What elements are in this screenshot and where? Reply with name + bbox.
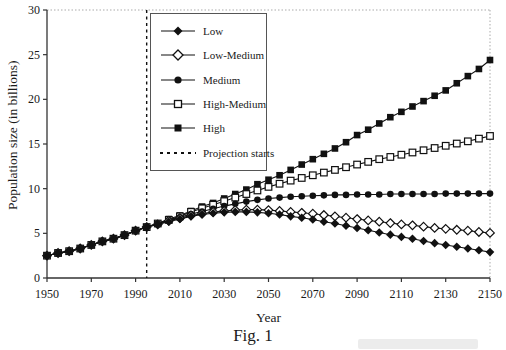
open-square-marker <box>398 151 405 158</box>
open-square-marker <box>321 169 328 176</box>
x-axis-label: Year <box>47 310 490 326</box>
legend-item-low: Low <box>159 24 264 38</box>
legend-label: High-Medium <box>203 98 266 110</box>
filled-circle-marker <box>442 190 449 197</box>
filled-square-marker <box>254 181 261 188</box>
open-square-marker <box>409 149 416 156</box>
y-axis-label: Population size (in billions) <box>5 80 21 210</box>
open-square-marker <box>376 156 383 163</box>
population-projection-figure: 0510152025301950197019902010203020502070… <box>0 0 506 350</box>
filled-diamond-marker <box>375 228 384 237</box>
filled-diamond-marker <box>364 226 373 235</box>
y-tick-label: 30 <box>28 3 40 17</box>
filled-diamond-marker <box>486 248 495 257</box>
legend-item-high-medium: High-Medium <box>159 97 264 111</box>
filled-square-marker <box>343 139 350 146</box>
open-diamond-marker <box>397 220 406 229</box>
open-square-marker <box>453 140 460 147</box>
filled-square-marker <box>420 98 427 105</box>
open-square-marker <box>343 164 350 171</box>
filled-circle-marker <box>298 193 305 200</box>
legend-label: Projection starts <box>203 147 274 159</box>
filled-diamond-marker <box>309 215 318 224</box>
filled-square-marker <box>487 57 494 64</box>
filled-square-marker <box>376 120 383 127</box>
filled-circle-marker <box>310 193 317 200</box>
x-tick-label: 2130 <box>434 287 458 301</box>
filled-square-marker <box>276 172 283 179</box>
filled-circle-marker <box>365 191 372 198</box>
open-diamond-marker <box>386 219 395 228</box>
y-tick-label: 25 <box>28 48 40 62</box>
open-square-marker <box>254 187 261 194</box>
filled-diamond-marker <box>441 241 450 250</box>
filled-circle-marker <box>276 194 283 201</box>
open-diamond-marker <box>441 225 450 234</box>
filled-square-marker <box>398 109 405 116</box>
filled-square-marker <box>365 126 372 133</box>
legend-label: Low-Medium <box>203 49 264 61</box>
filled-circle-marker <box>321 192 328 199</box>
open-square-marker <box>232 194 239 201</box>
x-tick-label: 2050 <box>257 287 281 301</box>
open-square-marker <box>354 161 361 168</box>
filled-square-marker <box>287 167 294 174</box>
open-square-marker <box>442 142 449 149</box>
filled-square-marker <box>310 156 317 163</box>
filled-diamond-marker <box>452 242 461 251</box>
filled-square-marker <box>265 176 272 183</box>
legend-item-low-medium: Low-Medium <box>159 48 264 62</box>
filled-diamond-marker <box>430 239 439 248</box>
filled-circle-marker <box>354 191 361 198</box>
open-diamond-marker <box>342 213 351 222</box>
filled-circle-marker <box>420 191 427 198</box>
filled-diamond-marker <box>386 230 395 239</box>
filled-circle-icon <box>159 74 197 86</box>
filled-square-marker <box>453 80 460 87</box>
open-diamond-marker <box>408 221 417 230</box>
filled-diamond-marker <box>419 237 428 246</box>
open-square-marker <box>310 172 317 179</box>
legend-label: Medium <box>203 74 240 86</box>
x-tick-label: 1950 <box>35 287 59 301</box>
x-tick-label: 2030 <box>212 287 236 301</box>
open-diamond-marker <box>419 222 428 231</box>
open-diamond-icon <box>159 49 197 61</box>
open-square-marker <box>287 177 294 184</box>
y-tick-label: 0 <box>34 271 40 285</box>
filled-circle-marker <box>465 190 472 197</box>
filled-circle-marker <box>287 193 294 200</box>
open-square-marker <box>298 175 305 182</box>
open-diamond-marker <box>364 216 373 225</box>
x-tick-label: 2110 <box>390 287 414 301</box>
x-tick-label: 1990 <box>124 287 148 301</box>
filled-diamond-marker <box>331 219 340 228</box>
filled-circle-marker <box>487 190 494 197</box>
filled-square-marker <box>465 73 472 80</box>
filled-circle-marker <box>453 190 460 197</box>
filled-circle-marker <box>343 192 350 199</box>
open-diamond-marker <box>430 224 439 233</box>
filled-diamond-marker <box>475 246 484 255</box>
filled-square-marker <box>332 145 339 152</box>
filled-circle-marker <box>476 190 483 197</box>
filled-square-marker <box>298 161 305 168</box>
filled-diamond-marker <box>397 233 406 242</box>
x-tick-label: 1970 <box>79 287 103 301</box>
open-diamond-marker <box>475 228 484 237</box>
open-diamond-marker <box>486 229 495 238</box>
open-diamond-marker <box>452 225 461 234</box>
open-diamond-marker <box>375 217 384 226</box>
filled-circle-marker <box>254 197 261 204</box>
filled-square-marker <box>321 151 328 158</box>
y-tick-label: 5 <box>34 226 40 240</box>
open-square-marker <box>420 147 427 154</box>
filled-diamond-marker <box>464 244 473 253</box>
filled-diamond-marker <box>408 234 417 243</box>
filled-circle-marker <box>387 191 394 198</box>
legend-item-high: High <box>159 121 264 135</box>
x-tick-label: 2010 <box>168 287 192 301</box>
filled-square-marker <box>442 87 449 94</box>
open-square-marker <box>365 159 372 166</box>
filled-diamond-marker <box>342 221 351 230</box>
